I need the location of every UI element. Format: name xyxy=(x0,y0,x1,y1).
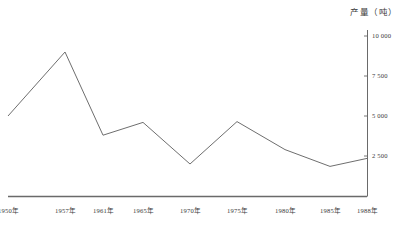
x-axis-tick-label: 1957年 xyxy=(55,205,76,215)
chart-axis-title: 产量（吨） xyxy=(350,5,398,17)
y-axis-ticks xyxy=(364,36,368,156)
x-axis-tick-label: 1988年 xyxy=(357,205,378,215)
x-axis-tick-label: 1961年 xyxy=(93,205,114,215)
y-axis-tick-label: 2 500 xyxy=(372,152,388,159)
x-axis-tick-label: 1950年 xyxy=(0,205,19,215)
y-axis-tick-label: 5 000 xyxy=(372,112,388,119)
y-axis-tick-label: 7 500 xyxy=(372,72,388,79)
x-axis-tick-label: 1965年 xyxy=(133,205,154,215)
x-axis-tick-label: 1975年 xyxy=(227,205,248,215)
x-axis-tick-label: 1980年 xyxy=(275,205,296,215)
line-chart: 产量（吨） 10 0007 5005 0002 500 1950年1957年19… xyxy=(0,0,413,236)
chart-plot-area xyxy=(0,0,413,236)
data-series-line xyxy=(8,52,367,166)
x-axis-tick-label: 1985年 xyxy=(320,205,341,215)
y-axis-tick-label: 10 000 xyxy=(372,32,391,39)
x-axis-tick-label: 1970年 xyxy=(180,205,201,215)
